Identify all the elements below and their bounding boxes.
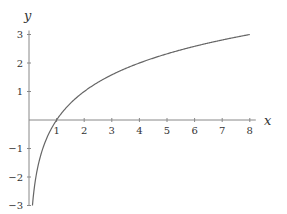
y-tick-label: 2 <box>17 58 23 69</box>
x-tick-label: 8 <box>247 125 253 136</box>
x-tick-label: 1 <box>53 125 59 136</box>
x-axis-label: x <box>264 113 272 128</box>
y-tick-label: −3 <box>8 200 23 211</box>
x-tick-label: 6 <box>191 125 197 136</box>
x-tick-label: 5 <box>164 125 170 136</box>
x-tick-label: 2 <box>81 125 87 136</box>
x-tick-label: 7 <box>219 125 225 136</box>
x-tick-label: 4 <box>136 125 142 136</box>
y-tick-label: −2 <box>8 172 23 183</box>
y-axis-label: y <box>23 8 32 23</box>
chart: 12345678−3−2−1123 x y <box>0 0 287 214</box>
y-tick-label: −1 <box>8 143 23 154</box>
x-tick-label: 3 <box>109 125 115 136</box>
y-tick-label: 1 <box>17 86 23 97</box>
y-tick-label: 3 <box>17 29 23 40</box>
